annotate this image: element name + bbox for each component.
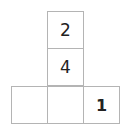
net-cell-bottom-center [47, 86, 84, 124]
cell-value: 1 [96, 96, 107, 115]
net-cell-bottom-left [11, 86, 48, 124]
cell-value: 4 [60, 57, 71, 77]
net-cell-top: 2 [47, 11, 84, 49]
cell-value: 2 [60, 20, 71, 40]
net-cell-bottom-right: 1 [83, 86, 120, 124]
net-cell-middle: 4 [47, 48, 84, 86]
